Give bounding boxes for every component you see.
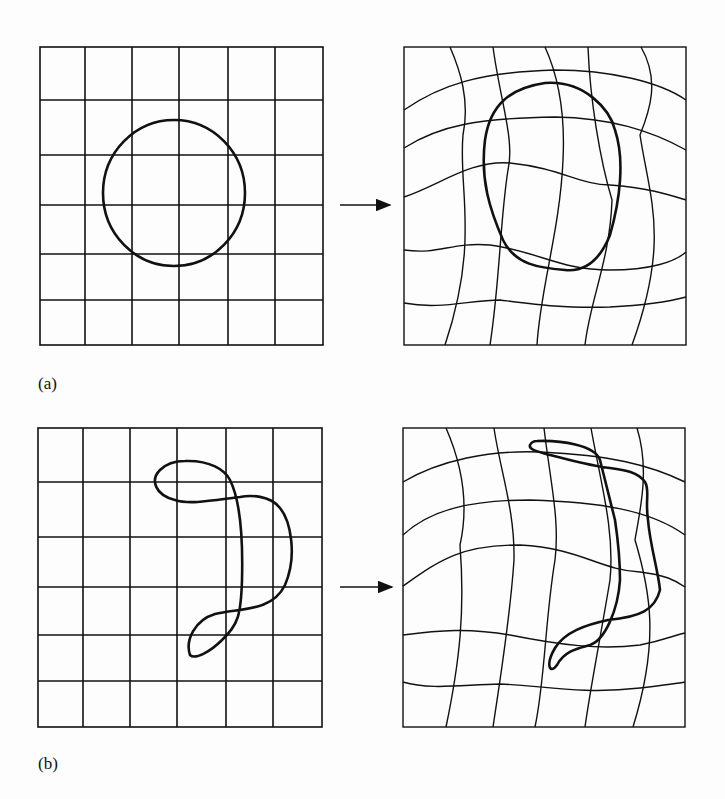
panel-a-target-grid <box>404 47 686 345</box>
panel-a-label: (a) <box>38 374 57 394</box>
panel-a-source-grid <box>40 47 323 345</box>
panel-a-source-circle <box>103 120 245 266</box>
panel-b-target-grid <box>403 428 685 727</box>
panel-b-label: (b) <box>38 754 58 774</box>
panel-b-source-curve <box>155 461 292 657</box>
panel-b-target-curve <box>530 441 660 669</box>
figure-canvas <box>0 0 725 799</box>
panel-b-source-grid <box>38 428 322 727</box>
